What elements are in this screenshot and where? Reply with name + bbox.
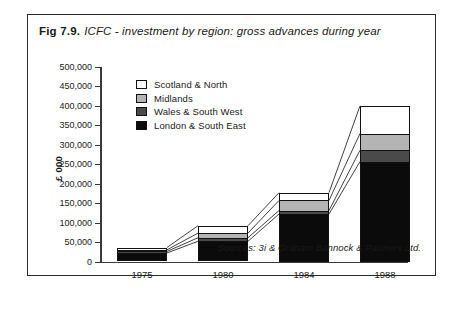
y-tick-mark	[95, 145, 100, 146]
band-connector-line	[167, 226, 198, 248]
source-note: Sources: 3i & Graham Bannock & Partners …	[218, 242, 421, 253]
legend-item-label: Wales & South West	[154, 105, 242, 119]
legend-item-wales[interactable]: Wales & South West	[136, 105, 246, 119]
y-tick-label: 250,000	[59, 159, 92, 169]
band-connector-line	[329, 150, 360, 210]
bar-segment-wales[interactable]	[117, 251, 167, 253]
legend-item-london[interactable]: London & South East	[136, 119, 246, 133]
bar-1975[interactable]	[117, 248, 167, 262]
band-connector-line	[248, 214, 279, 241]
bar-segment-scotland[interactable]	[360, 106, 410, 134]
figure-number: Fig 7.9.	[39, 25, 80, 37]
bar-segment-wales[interactable]	[198, 238, 248, 242]
legend-item-scotland[interactable]: Scotland & North	[136, 78, 246, 92]
y-tick-label: 0	[87, 257, 92, 267]
legend-item-label: Scotland & North	[154, 78, 227, 92]
y-tick-mark	[95, 125, 100, 126]
bar-1988[interactable]	[360, 106, 410, 262]
y-tick-mark	[95, 203, 100, 204]
band-connector-line	[329, 134, 360, 201]
bar-segment-london[interactable]	[279, 214, 329, 261]
bar-segment-midlands[interactable]	[360, 134, 410, 151]
bar-segment-midlands[interactable]	[198, 233, 248, 238]
band-connector-line	[167, 241, 198, 253]
band-connector-line	[329, 106, 360, 193]
bar-segment-scotland[interactable]	[198, 226, 248, 233]
bar-segment-scotland[interactable]	[117, 248, 167, 250]
legend-item-midlands[interactable]: Midlands	[136, 92, 246, 106]
y-tick-label: 350,000	[59, 120, 92, 130]
y-tick-mark	[95, 184, 100, 185]
y-tick-label: 450,000	[59, 81, 92, 91]
y-tick-label: 150,000	[59, 198, 92, 208]
y-tick-label: 100,000	[59, 218, 92, 228]
y-tick-label: 300,000	[59, 140, 92, 150]
y-tick-mark	[95, 242, 100, 243]
legend-swatch-icon	[136, 121, 147, 130]
y-tick-mark	[95, 223, 100, 224]
y-tick-label: 50,000	[64, 237, 92, 247]
bar-segment-midlands[interactable]	[117, 250, 167, 252]
y-tick-mark	[95, 262, 100, 263]
bar-segment-wales[interactable]	[279, 211, 329, 215]
x-tick-label: 1975	[131, 269, 152, 280]
y-tick-label: 400,000	[59, 101, 92, 111]
y-tick-label: 200,000	[59, 179, 92, 189]
band-connector-line	[248, 200, 279, 233]
bar-segment-midlands[interactable]	[279, 200, 329, 210]
legend-swatch-icon	[136, 80, 147, 89]
x-axis-line	[100, 262, 408, 264]
y-tick-label: 500,000	[59, 62, 92, 72]
y-axis-line	[100, 67, 102, 263]
band-connector-line	[329, 162, 360, 215]
bar-segment-wales[interactable]	[360, 150, 410, 161]
band-connector-line	[167, 238, 198, 252]
bar-segment-scotland[interactable]	[279, 193, 329, 201]
y-tick-mark	[95, 106, 100, 107]
figure-frame: Fig 7.9.ICFC - investment by region: gro…	[27, 14, 436, 276]
x-tick-label: 1988	[374, 269, 395, 280]
y-tick-mark	[95, 86, 100, 87]
band-connector-line	[248, 211, 279, 238]
bar-segment-london[interactable]	[117, 253, 167, 262]
x-tick-label: 1984	[293, 269, 314, 280]
y-tick-mark	[95, 67, 100, 68]
legend-swatch-icon	[136, 107, 147, 116]
figure-caption: Fig 7.9.ICFC - investment by region: gro…	[39, 25, 381, 37]
figure-title: ICFC - investment by region: gross advan…	[84, 25, 380, 37]
legend-swatch-icon	[136, 94, 147, 103]
y-tick-mark	[95, 164, 100, 165]
band-connector-line	[248, 193, 279, 226]
band-connector-line	[167, 233, 198, 250]
legend-item-label: London & South East	[154, 119, 246, 133]
chart-legend: Scotland & NorthMidlandsWales & South We…	[136, 78, 246, 132]
x-tick-label: 1980	[212, 269, 233, 280]
legend-item-label: Midlands	[154, 92, 193, 106]
